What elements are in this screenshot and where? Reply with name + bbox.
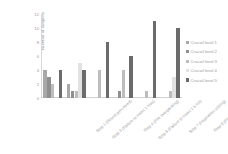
legend-item[interactable]: Crucial level 4 [186,68,228,73]
bar [169,91,172,98]
legend-label: Crucial level 5 [191,78,221,83]
bar [98,70,101,98]
bar [176,28,179,98]
legend-item[interactable]: Crucial level 1 [186,40,228,45]
bar [82,70,85,98]
bar [145,91,148,98]
y-tick-label: 6 [27,54,39,59]
bar-group [88,14,112,98]
y-tick-label: 10 [27,26,39,31]
legend-swatch-icon [186,69,189,72]
y-tick-label: 0 [27,96,39,101]
legend-label: Crucial level 1 [191,40,221,45]
bar [118,91,121,98]
chart-legend: Crucial level 1Crucial level 2Crucial le… [186,40,228,87]
bar [59,70,62,98]
y-tick-label: 8 [27,40,39,45]
bar [122,70,125,98]
legend-item[interactable]: Crucial level 5 [186,78,228,83]
y-tick-label: 2 [27,82,39,87]
bar-group [112,14,136,98]
y-tick-label: 4 [27,68,39,73]
bar-group [41,14,65,98]
y-tick-label: 12 [27,12,39,17]
legend-label: Crucial level 4 [191,68,221,73]
bar-groups [41,14,182,98]
x-axis-category-labels: Step 1 (Sound perceived)Step 3 (Failure … [41,98,182,154]
bar [78,63,81,98]
bar [71,91,74,98]
legend-swatch-icon [186,60,189,63]
y-axis-tick-labels: 121086420 [27,9,39,103]
legend-swatch-icon [186,50,189,53]
bar-group [159,14,183,98]
bar [75,91,78,98]
bar-group [135,14,159,98]
bar-group [65,14,89,98]
bar [172,77,175,98]
bar [106,42,109,98]
legend-item[interactable]: Crucial level 3 [186,59,228,64]
legend-label: Crucial level 3 [191,59,221,64]
bar [43,70,46,98]
bar [67,84,70,98]
legend-swatch-icon [186,41,189,44]
legend-swatch-icon [186,78,189,81]
bar [51,84,54,98]
bar [129,56,132,98]
legend-label: Crucial level 2 [191,49,221,54]
bar [47,77,50,98]
bar [153,21,156,98]
bar-chart: Number of subjects 121086420 Step 1 (Sou… [0,0,228,154]
legend-item[interactable]: Crucial level 2 [186,49,228,54]
